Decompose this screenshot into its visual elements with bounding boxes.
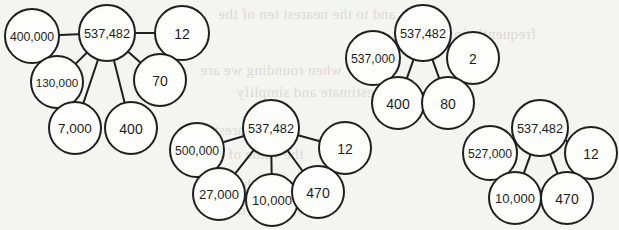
bond-part-node: 10,000 xyxy=(246,174,298,226)
bond-part-node-label: 400 xyxy=(119,121,143,137)
bond-part-node: 70 xyxy=(134,54,186,106)
number-bond-2: 500,0001227,00010,000470537,482 xyxy=(170,100,371,226)
bond-part-node-label: 70 xyxy=(152,73,168,89)
bond-connector-line xyxy=(76,53,86,63)
bond-part-node: 7,000 xyxy=(49,102,101,154)
bond-whole-node: 537,482 xyxy=(395,5,451,61)
bond-part-node: 400,000 xyxy=(5,9,59,63)
bond-connector-line xyxy=(60,34,78,35)
bond-part-node: 12 xyxy=(155,6,209,60)
bond-whole-node: 537,482 xyxy=(79,5,135,61)
bond-part-node: 400 xyxy=(372,77,424,129)
number-bond-4: 527,0001210,000470537,482 xyxy=(463,100,617,224)
bond-part-node-label: 400,000 xyxy=(10,30,54,44)
bond-part-node-label: 10,000 xyxy=(252,193,292,208)
bond-whole-node-label: 537,482 xyxy=(248,121,294,136)
bond-part-node: 80 xyxy=(422,77,474,129)
bond-part-node-label: 470 xyxy=(555,191,579,207)
bond-connector-line xyxy=(224,136,243,142)
bond-part-node-label: 7,000 xyxy=(58,121,92,136)
bond-part-node-label: 527,000 xyxy=(468,147,512,161)
bond-part-node-label: 470 xyxy=(306,185,330,201)
bond-whole-node: 537,482 xyxy=(243,100,299,156)
bond-connector-line xyxy=(84,60,98,102)
bond-connector-line xyxy=(433,60,439,77)
bond-part-node: 12 xyxy=(319,122,371,174)
number-bond-diagrams: 400,00012130,000707,000400537,482500,000… xyxy=(0,0,619,230)
bond-part-node: 12 xyxy=(565,127,617,179)
bond-part-node-label: 2 xyxy=(469,51,477,67)
bond-connector-line xyxy=(550,155,557,173)
bond-connector-line xyxy=(236,151,253,173)
bond-part-node-label: 27,000 xyxy=(199,187,239,202)
bond-whole-node: 537,482 xyxy=(512,100,568,156)
bond-connector-line xyxy=(288,151,302,170)
bond-part-node-label: 12 xyxy=(337,141,353,157)
bond-whole-node-label: 537,482 xyxy=(400,26,446,41)
bond-part-node-label: 12 xyxy=(174,26,190,42)
number-bond-3: 537,000240080537,482 xyxy=(346,5,499,129)
bond-part-node: 27,000 xyxy=(193,168,245,220)
bond-part-node: 470 xyxy=(292,166,344,218)
bond-part-node-label: 130,000 xyxy=(36,76,79,89)
bond-part-node: 470 xyxy=(541,172,593,224)
bond-connector-line xyxy=(129,52,140,62)
bond-part-node: 10,000 xyxy=(489,172,541,224)
bond-connector-line xyxy=(524,155,530,172)
bond-connector-line xyxy=(299,136,319,141)
bond-part-node: 2 xyxy=(447,32,499,84)
bond-part-node-label: 12 xyxy=(583,146,599,162)
bond-part-node-label: 400 xyxy=(386,96,410,112)
bond-part-node-label: 10,000 xyxy=(495,191,535,206)
bond-part-node-label: 500,000 xyxy=(175,144,219,158)
bond-whole-node-label: 537,482 xyxy=(84,26,130,41)
bond-connector-line xyxy=(407,60,413,77)
bond-whole-node-label: 537,482 xyxy=(517,121,563,136)
bond-part-node: 130,000 xyxy=(31,56,83,108)
bond-part-node-label: 537,000 xyxy=(351,52,395,66)
bond-part-node-label: 80 xyxy=(440,96,456,112)
bond-connector-line xyxy=(114,61,124,102)
bond-part-node: 400 xyxy=(105,102,157,154)
